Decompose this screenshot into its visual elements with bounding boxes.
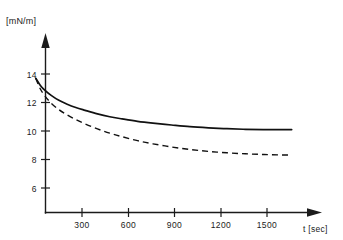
chart-figure: 14 12 10 8 6 300 600 900 1200 1500 t [se… [0, 0, 343, 240]
y-axis [41, 33, 49, 213]
x-tick-label-600: 600 [121, 220, 136, 230]
x-axis [46, 208, 323, 216]
y-tick-label-6: 6 [32, 184, 37, 194]
y-tick-label-8: 8 [32, 155, 37, 165]
y-axis-unit-label: [mN/m] [6, 16, 36, 26]
y-axis-arrow-icon [41, 33, 49, 48]
x-tick-label-900: 900 [167, 220, 182, 230]
x-axis-arrow-icon [307, 208, 322, 216]
x-axis-caption: t [sec] [303, 224, 328, 234]
series-dashed-curve [36, 78, 292, 155]
chart-canvas: 14 12 10 8 6 300 600 900 1200 1500 t [se… [0, 0, 343, 240]
series-solid-curve [36, 78, 292, 129]
y-tick-label-10: 10 [27, 127, 37, 137]
x-tick-label-1500: 1500 [257, 220, 278, 230]
x-tick-label-300: 300 [74, 220, 89, 230]
y-tick-label-12: 12 [27, 98, 37, 108]
x-tick-label-1200: 1200 [211, 220, 232, 230]
